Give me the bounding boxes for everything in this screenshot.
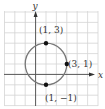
point-label-1-3: (1, 3) [39,25,63,35]
y-axis-label: y [32,1,39,11]
point-1-neg1 [44,83,48,87]
x-axis [4,72,95,76]
x-axis-label: x [98,70,103,80]
point-label-1-neg1: (1, −1) [45,93,77,103]
point-label-3-1: (3, 1) [68,59,92,69]
coordinate-plane: x y (1, 3) (3, 1) (1, −1) [0,0,105,109]
x-axis-arrow-icon [89,72,95,76]
y-axis [34,11,38,106]
point-1-3 [44,41,48,45]
